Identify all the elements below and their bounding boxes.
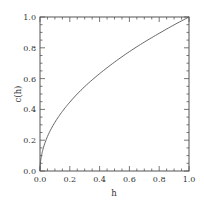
plot-frame [40, 17, 189, 171]
y-tick-label: 1.0 [23, 13, 36, 22]
y-tick-labels: 0.00.20.40.60.81.0 [23, 13, 36, 176]
x-tick-label: 0.6 [123, 175, 136, 184]
x-tick-labels: 0.00.20.40.60.81.0 [34, 175, 196, 184]
y-tick-label: 0.6 [23, 75, 36, 84]
x-tick-label: 0.4 [93, 175, 106, 184]
x-tick-label: 0.8 [153, 175, 166, 184]
x-tick-label: 0.0 [34, 175, 47, 184]
axis-ticks [40, 17, 189, 171]
y-tick-label: 0.4 [23, 105, 36, 114]
y-tick-label: 0.8 [23, 44, 36, 53]
data-line-c-h [40, 17, 189, 171]
x-axis-label: h [111, 188, 117, 198]
x-tick-label: 0.2 [63, 175, 76, 184]
y-tick-label: 0.0 [23, 167, 36, 176]
chart: 0.00.20.40.60.81.0 0.00.20.40.60.81.0 h … [0, 0, 204, 204]
x-tick-label: 1.0 [183, 175, 196, 184]
y-tick-label: 0.2 [23, 136, 36, 145]
y-axis-label: c(h) [13, 86, 23, 103]
